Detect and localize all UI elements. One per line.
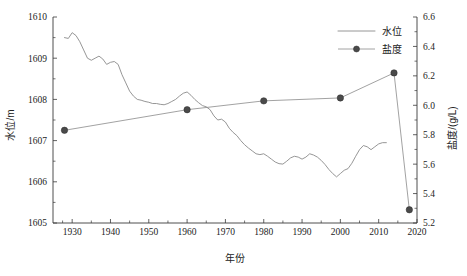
- y-left-tick-label: 1607: [28, 136, 47, 146]
- y-axis-right-tick-labels: 5.25.45.65.86.06.26.46.6: [423, 12, 435, 228]
- x-axis-ticks: [63, 219, 417, 223]
- salinity-data-point: [337, 95, 343, 101]
- y-right-tick-label: 5.4: [423, 189, 435, 199]
- y-axis-right-ticks: [413, 17, 417, 223]
- x-tick-label: 1940: [101, 227, 120, 237]
- salinity-data-point: [61, 127, 67, 133]
- y-right-tick-label: 5.8: [423, 130, 435, 140]
- x-tick-label: 2010: [369, 227, 388, 237]
- y-left-tick-label: 1606: [28, 177, 47, 187]
- y-right-tick-label: 6.0: [423, 101, 435, 111]
- x-axis-title: 年份: [225, 252, 245, 264]
- y-left-tick-label: 1605: [28, 218, 47, 228]
- x-tick-label: 1930: [63, 227, 82, 237]
- chart-legend: 水位 盐度: [338, 25, 402, 55]
- y-right-tick-label: 6.6: [423, 12, 435, 22]
- salinity-data-point: [406, 207, 412, 213]
- y-axis-left-ticks: [53, 17, 57, 223]
- y-left-tick-label: 1610: [28, 12, 47, 22]
- y-left-tick-label: 1608: [28, 95, 47, 105]
- chart-canvas: 1930194019501960197019801990200020102020…: [0, 0, 467, 276]
- series-line-salinity: [64, 73, 409, 210]
- legend-marker-salinity: [354, 46, 360, 52]
- y-right-tick-label: 6.4: [423, 42, 435, 52]
- axes-group: [53, 17, 417, 223]
- series-line-water-level: [64, 33, 386, 177]
- y-axis-left-tick-labels: 160516061607160816091610: [28, 12, 47, 228]
- x-axis-tick-labels: 1930194019501960197019801990200020102020: [63, 227, 427, 237]
- x-tick-label: 1990: [293, 227, 312, 237]
- x-tick-label: 1980: [254, 227, 273, 237]
- y-left-tick-label: 1609: [28, 54, 47, 64]
- y-axis-right-title: 盐度/(g/L): [446, 106, 458, 149]
- legend-label-water-level: 水位: [382, 25, 402, 37]
- salinity-data-point: [184, 107, 190, 113]
- y-axis-left-title: 水位/m: [4, 109, 16, 140]
- y-right-tick-label: 6.2: [423, 71, 435, 81]
- x-tick-label: 1960: [178, 227, 197, 237]
- y-right-tick-label: 5.2: [423, 218, 435, 228]
- chart-figure: 1930194019501960197019801990200020102020…: [0, 0, 467, 276]
- series-markers-salinity: [61, 70, 412, 213]
- x-tick-label: 1970: [216, 227, 235, 237]
- legend-label-salinity: 盐度: [382, 43, 402, 55]
- x-tick-label: 1950: [139, 227, 158, 237]
- y-right-tick-label: 5.6: [423, 160, 435, 170]
- salinity-data-point: [261, 98, 267, 104]
- salinity-data-point: [391, 70, 397, 76]
- x-tick-label: 2000: [331, 227, 350, 237]
- x-tick-label: 2020: [408, 227, 427, 237]
